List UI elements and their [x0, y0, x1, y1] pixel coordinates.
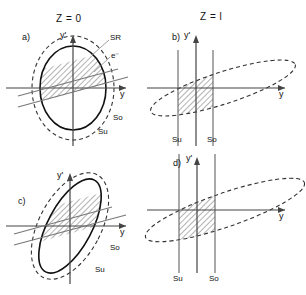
su-label-c: Su [95, 265, 105, 274]
panel-a-graphic [0, 0, 153, 147]
horizontal-axis-label-c: y [120, 227, 125, 237]
vertical-axis-label-a: y' [60, 30, 66, 40]
vertical-axis-label-d: y' [186, 153, 192, 163]
so-label-c: So [110, 243, 120, 252]
panel-label-c: c) [18, 196, 26, 206]
su-label-b: Su [172, 135, 182, 144]
vertical-axis-arrow-d [194, 157, 200, 165]
panel-d: d) y' y Su So [153, 148, 306, 295]
sr-label-a: SR [110, 33, 121, 42]
vertical-axis-label-c: y' [57, 170, 63, 180]
sr-leader-line-a [92, 40, 109, 55]
so-label-b: So [207, 135, 217, 144]
su-label-a: Su [98, 127, 108, 136]
panel-b: b) y' y Su So [153, 0, 306, 147]
so-label-d: So [209, 274, 219, 283]
panel-label-b: b) [172, 32, 180, 42]
panel-c: c) y' y So Su [0, 148, 153, 295]
panel-a: a) y' y SR e⁻ So Su [0, 0, 153, 147]
horizontal-axis-label-b: y [279, 89, 284, 99]
panel-label-a: a) [22, 32, 30, 42]
su-label-d: Su [173, 274, 183, 283]
figure-root: Z = 0 Z = l [0, 0, 306, 295]
panel-b-graphic [153, 0, 306, 147]
electron-label-a: e⁻ [111, 51, 119, 60]
vertical-axis-arrow-b [193, 35, 199, 43]
vertical-axis-label-b: y' [184, 30, 190, 40]
horizontal-axis-label-a: y [120, 89, 125, 99]
panel-d-graphic [153, 148, 306, 295]
so-label-a: So [113, 113, 123, 122]
panel-c-graphic [0, 148, 153, 295]
panel-label-d: d) [173, 158, 181, 168]
vertical-axis-arrow-c [67, 173, 73, 181]
horizontal-axis-label-d: y [279, 211, 284, 221]
